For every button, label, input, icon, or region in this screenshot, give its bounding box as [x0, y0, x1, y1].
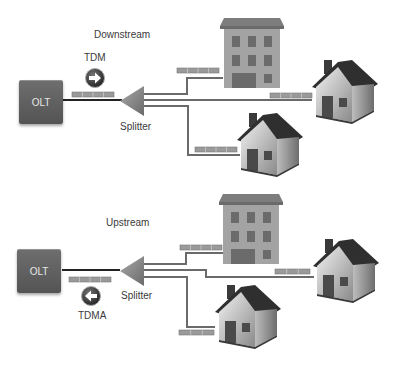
arrow-left-icon [82, 287, 101, 306]
apartment-building-icon [220, 18, 284, 88]
house-icon [312, 60, 378, 124]
olt-upstream: OLT [17, 249, 61, 293]
pon-diagram [0, 0, 397, 367]
downstream-packet-house1 [270, 93, 312, 98]
apartment-building-icon [219, 194, 283, 264]
house-icon [237, 113, 303, 177]
arrow-right-icon [86, 69, 105, 88]
downstream-title: Downstream [94, 29, 150, 40]
downstream-packet-feeder [72, 92, 114, 97]
tdm-label: TDM [84, 52, 106, 63]
upstream-packet-feeder [69, 277, 111, 282]
upstream-title: Upstream [106, 217, 149, 228]
downstream-panel [63, 18, 378, 177]
olt-downstream: OLT [19, 80, 63, 124]
splitter-icon [120, 86, 144, 116]
house-icon [215, 285, 281, 349]
tdma-label: TDMA [78, 310, 106, 321]
downstream-packet-building [177, 68, 219, 73]
upstream-packet-building [180, 245, 222, 250]
splitter-label-downstream: Splitter [120, 121, 151, 132]
splitter-label-upstream: Splitter [121, 290, 152, 301]
downstream-packet-house2 [195, 147, 237, 152]
upstream-packet-house1 [275, 269, 310, 274]
splitter-icon [120, 256, 144, 286]
house-icon [313, 239, 379, 303]
upstream-packet-house2 [179, 330, 214, 335]
